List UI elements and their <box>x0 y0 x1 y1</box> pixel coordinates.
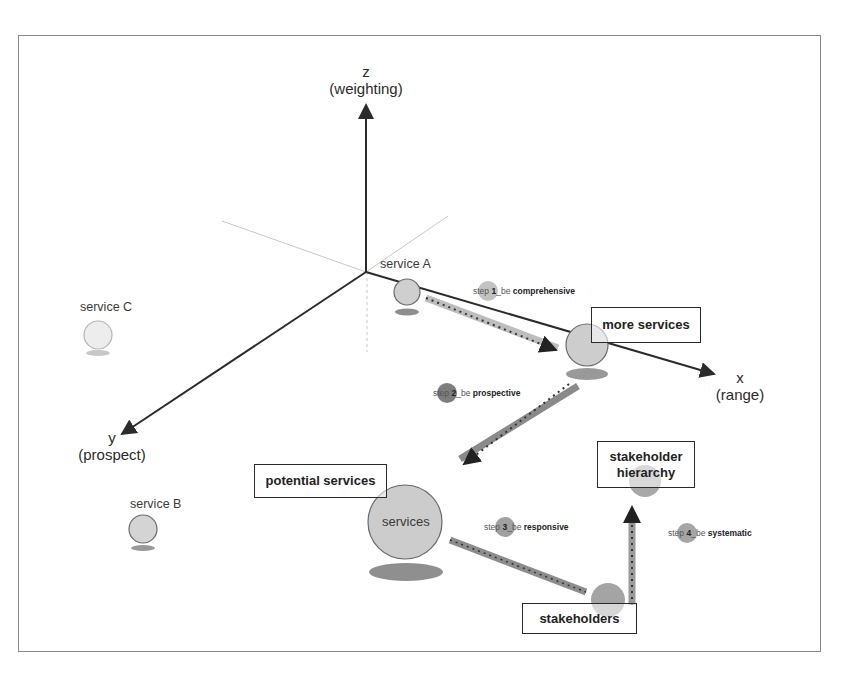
step3-prefix: step <box>484 522 502 532</box>
step1-label: step 1_be comprehensive <box>473 286 575 296</box>
service-b-sphere <box>129 515 157 543</box>
y-axis-letter: y <box>62 429 162 446</box>
x-axis-label: x (range) <box>700 369 780 403</box>
step3-mid: _be <box>507 522 524 532</box>
step4-word: systematic <box>708 528 752 538</box>
stakeholder-hierarchy-box: stakeholder hierarchy <box>597 441 695 488</box>
x-axis-name: (range) <box>700 386 780 403</box>
y-axis <box>122 272 366 434</box>
step2-mid: _be <box>456 388 473 398</box>
step3-arrow <box>450 540 586 592</box>
x-axis-letter: x <box>700 369 780 386</box>
step1-mid: _be <box>496 286 513 296</box>
service-a-sphere <box>394 279 420 305</box>
service-a-label: service A <box>380 257 431 271</box>
step1-prefix: step <box>473 286 491 296</box>
step2-word: prospective <box>473 388 521 398</box>
diagram-canvas <box>0 0 851 673</box>
service-b-label: service B <box>130 497 181 511</box>
potential-services-box: potential services <box>254 464 387 498</box>
step2-prefix: step <box>433 388 451 398</box>
y-axis-name: (prospect) <box>62 446 162 463</box>
service-c-label: service C <box>80 300 132 314</box>
stakeholder-hierarchy-line2: hierarchy <box>617 465 676 481</box>
z-axis-label: z (weighting) <box>314 63 418 97</box>
step3-label: step 3_be responsive <box>484 522 569 532</box>
stakeholder-hierarchy-line1: stakeholder <box>610 449 683 465</box>
z-axis-name: (weighting) <box>314 80 418 97</box>
step1-word: comprehensive <box>513 286 575 296</box>
service-c-sphere <box>84 321 112 349</box>
stakeholders-box: stakeholders <box>522 603 637 634</box>
step4-prefix: step <box>668 528 686 538</box>
step4-label: step 4_be systematic <box>668 528 752 538</box>
step2-label: step 2_be prospective <box>433 388 520 398</box>
step4-mid: _be <box>691 528 708 538</box>
y-axis-label: y (prospect) <box>62 429 162 463</box>
step1-arrow <box>426 298 558 350</box>
more-services-box: more services <box>591 307 701 343</box>
step3-word: responsive <box>524 522 569 532</box>
z-axis-letter: z <box>314 63 418 80</box>
services-center-label: services <box>382 514 430 529</box>
sphere-shadows <box>86 309 608 582</box>
